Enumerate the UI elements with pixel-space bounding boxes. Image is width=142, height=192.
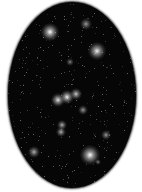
star [88,42,106,60]
dust-speck [75,183,76,184]
dust-speck [103,87,104,88]
dust-speck [22,132,23,133]
dust-speck [93,138,94,139]
dust-speck [8,44,9,45]
dust-speck [76,61,77,62]
dust-speck [70,14,71,15]
dust-speck [13,121,14,122]
dust-speck [132,168,133,169]
dust-speck [32,80,33,81]
dust-speck [22,58,23,59]
dust-speck [75,106,76,107]
dust-speck [135,125,136,126]
dust-speck [25,4,26,5]
dust-speck [11,42,12,43]
dust-speck [128,160,129,161]
dust-speck [45,133,46,134]
dust-speck [106,112,107,113]
dust-speck [25,36,26,37]
dust-speck [27,35,28,36]
dust-speck [105,14,106,15]
dust-speck [106,150,107,151]
dust-speck [72,171,73,172]
star-field [8,2,136,188]
dust-speck [13,9,14,10]
dust-speck [127,73,128,74]
dust-speck [89,71,90,72]
dust-speck [134,85,135,86]
dust-speck [58,36,59,37]
dust-speck [94,135,95,136]
dust-speck [21,147,22,148]
dust-speck [116,179,117,180]
dust-speck [122,66,123,67]
dust-speck [131,46,132,47]
dust-speck [67,182,68,183]
dust-speck [15,166,16,167]
dust-speck [107,173,108,174]
dust-speck [122,178,123,179]
dust-speck [23,60,24,61]
dust-speck [37,75,38,76]
dust-speck [54,77,55,78]
dust-speck [123,51,124,52]
dust-speck [132,174,133,175]
dust-speck [123,22,124,23]
dust-speck [71,12,72,13]
dust-speck [132,31,133,32]
dust-speck [134,88,135,89]
dust-speck [96,113,97,114]
dust-speck [105,20,106,21]
dust-speck [109,172,110,173]
dust-speck [71,106,72,107]
dust-speck [127,121,128,122]
dust-speck [19,15,20,16]
dust-speck [81,56,82,57]
dust-speck [97,7,98,8]
dust-speck [24,137,25,138]
dust-speck [42,166,43,167]
dust-speck [70,21,71,22]
dust-speck [94,13,95,14]
dust-speck [125,24,126,25]
dust-speck [18,22,19,23]
dust-speck [81,36,82,37]
dust-speck [24,75,25,76]
dust-speck [60,155,61,156]
star [80,18,92,30]
dust-speck [24,24,25,25]
dust-speck [29,3,30,4]
dust-speck [103,140,104,141]
dust-speck [23,93,24,94]
dust-speck [124,151,125,152]
dust-speck [96,27,97,28]
dust-speck [39,25,40,26]
dust-speck [109,186,110,187]
dust-speck [104,121,105,122]
dust-speck [127,8,128,9]
dust-speck [120,42,121,43]
dust-speck [61,73,62,74]
dust-speck [8,40,9,41]
dust-speck [71,45,72,46]
dust-speck [17,43,18,44]
dust-speck [104,124,105,125]
dust-speck [131,98,132,99]
dust-speck [22,91,23,92]
dust-speck [43,50,44,51]
dust-speck [55,18,56,19]
dust-speck [107,182,108,183]
dust-speck [105,41,106,42]
dust-speck [18,3,19,4]
dust-speck [11,185,12,186]
dust-speck [114,159,115,160]
dust-speck [8,93,9,94]
dust-speck [61,168,62,169]
dust-speck [107,120,108,121]
dust-speck [121,90,122,91]
dust-speck [73,4,74,5]
dust-speck [62,166,63,167]
dust-speck [17,80,18,81]
dust-speck [86,73,87,74]
dust-speck [69,136,70,137]
